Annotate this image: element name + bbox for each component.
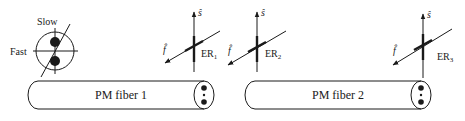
f-axis-label-2: f̂ <box>228 44 232 56</box>
stress-rod-top <box>50 37 60 47</box>
fiber-1-label: PM fiber 1 <box>95 88 147 102</box>
stress-rod-bottom <box>50 56 60 66</box>
fast-label: Fast <box>10 46 27 57</box>
stress-rod-cross-section: Slow Fast <box>10 16 78 77</box>
polarization-axes-1: ŝ f̂ ER1 <box>163 7 220 72</box>
polarization-axes-2: ŝ f̂ ER2 <box>228 7 286 72</box>
er-label-3: ER3 <box>437 51 454 64</box>
s-axis-label-1: ŝ <box>198 7 202 18</box>
pm-fiber-2: PM fiber 2 <box>245 81 431 109</box>
er-label-1: ER1 <box>201 48 218 61</box>
s-axis-label-3: ŝ <box>427 9 431 20</box>
fiber-2-label: PM fiber 2 <box>312 88 364 102</box>
er-label-2: ER2 <box>265 48 282 61</box>
polarization-axes-3: ŝ f̂ ER3 <box>393 9 454 78</box>
f-axis-label-1: f̂ <box>163 43 167 55</box>
pm-fiber-1: PM fiber 1 <box>28 81 214 109</box>
f-axis-label-3: f̂ <box>393 44 397 56</box>
slow-label: Slow <box>37 16 58 27</box>
s-axis-label-2: ŝ <box>261 7 265 18</box>
pm-fiber-diagram: Slow Fast PM fiber 1 PM fiber 2 ŝ f̂ ER1… <box>0 0 465 121</box>
